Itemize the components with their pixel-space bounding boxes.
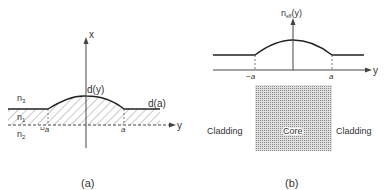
edge-label: d(a) — [148, 98, 166, 109]
cladding-left-label: Cladding — [207, 126, 243, 136]
region-n2-label: n2 — [17, 129, 26, 140]
core-label: Core — [283, 126, 303, 136]
tick-left-b-label: −a — [246, 72, 256, 81]
curve-label: d(y) — [87, 84, 104, 95]
y-axis-b-arrow-icon — [365, 68, 372, 73]
figure: x y d(y) d(a) n3 n1 n2 −a a (a) neff(y) … — [0, 0, 386, 190]
neff-profile-curve — [213, 40, 364, 55]
caption-a: (a) — [81, 177, 94, 189]
panel-a: x y d(y) d(a) n3 n1 n2 −a a (a) — [8, 29, 182, 189]
film-region-hatched — [8, 96, 160, 125]
y-axis-label: y — [177, 120, 182, 131]
x-axis-label: x — [89, 29, 94, 40]
tick-left-label: −a — [40, 125, 50, 134]
tick-right-label: a — [121, 125, 126, 134]
core-region — [255, 85, 332, 151]
y-axis-arrow-icon — [169, 123, 176, 128]
x-axis-arrow-icon — [84, 37, 89, 44]
panel-b: neff(y) y −a a Core Cladding Cladding (b… — [207, 8, 378, 189]
tick-right-b-label: a — [329, 72, 334, 81]
region-n3-label: n3 — [17, 93, 26, 104]
neff-axis-label: neff(y) — [281, 8, 302, 19]
neff-axis-arrow-icon — [291, 18, 296, 25]
caption-b: (b) — [285, 177, 298, 189]
cladding-right-label: Cladding — [336, 126, 372, 136]
y-axis-b-label: y — [373, 65, 378, 76]
